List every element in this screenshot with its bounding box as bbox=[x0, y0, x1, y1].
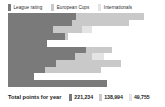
bar-row[interactable] bbox=[8, 40, 163, 47]
total-swatch-icon bbox=[69, 94, 72, 101]
total-value: 138,994 bbox=[104, 94, 123, 101]
bar-segment[interactable] bbox=[8, 20, 72, 27]
bar-row[interactable] bbox=[8, 13, 163, 20]
totals-values: 221,234 138,994 49,755 bbox=[69, 94, 155, 101]
bar-row[interactable] bbox=[8, 60, 163, 67]
legend-item-internationals[interactable]: Internationals bbox=[98, 4, 132, 11]
bar-row[interactable] bbox=[8, 73, 163, 80]
bar-row[interactable] bbox=[8, 67, 163, 74]
chart-plot-area bbox=[8, 13, 163, 87]
bar-segment[interactable] bbox=[65, 33, 68, 40]
bar-row[interactable] bbox=[8, 47, 163, 54]
legend-item-league-rating[interactable]: League rating bbox=[8, 4, 42, 11]
bar-segment[interactable] bbox=[53, 26, 82, 33]
total-item-european-cups: 138,994 bbox=[99, 94, 123, 101]
legend-swatch-icon bbox=[98, 4, 101, 11]
legend-item-label: League rating bbox=[14, 5, 43, 11]
legend-item-european-cups[interactable]: European Cups bbox=[51, 4, 89, 11]
legend-item-label: European Cups bbox=[57, 5, 90, 11]
bar-segment[interactable] bbox=[8, 13, 76, 20]
bar-segment[interactable] bbox=[8, 53, 75, 60]
totals-label: Total points for year bbox=[8, 94, 61, 101]
bar-row[interactable] bbox=[8, 20, 163, 27]
totals-footer: Total points for year 221,234 138,994 49… bbox=[0, 87, 165, 107]
chart-legend: League rating European Cups Internationa… bbox=[0, 0, 165, 13]
bar-segment[interactable] bbox=[82, 26, 91, 33]
bar-segment[interactable] bbox=[72, 20, 129, 27]
total-swatch-icon bbox=[99, 94, 102, 101]
bar-row[interactable] bbox=[8, 80, 163, 87]
bar-segment[interactable] bbox=[8, 73, 34, 80]
legend-item-label: Internationals bbox=[104, 5, 132, 11]
bar-segment[interactable] bbox=[8, 60, 56, 67]
bar-segment[interactable] bbox=[8, 67, 45, 74]
total-value: 221,234 bbox=[74, 94, 93, 101]
bar-segment[interactable] bbox=[8, 47, 86, 54]
bar-segment[interactable] bbox=[8, 40, 47, 47]
bar-segment[interactable] bbox=[76, 13, 144, 20]
bar-segment[interactable] bbox=[56, 60, 121, 67]
bar-segment[interactable] bbox=[92, 53, 104, 60]
bar-segment[interactable] bbox=[45, 67, 101, 74]
total-item-internationals: 49,755 bbox=[129, 94, 150, 101]
bar-segment[interactable] bbox=[8, 33, 65, 40]
bar-row[interactable] bbox=[8, 33, 163, 40]
bar-row[interactable] bbox=[8, 53, 163, 60]
total-item-league-rating: 221,234 bbox=[69, 94, 93, 101]
total-value: 49,755 bbox=[134, 94, 150, 101]
bar-row[interactable] bbox=[8, 26, 163, 33]
legend-swatch-icon bbox=[8, 4, 11, 11]
bar-segment[interactable] bbox=[8, 26, 53, 33]
stacked-bar-chart-widget: League rating European Cups Internationa… bbox=[0, 0, 165, 107]
legend-swatch-icon bbox=[51, 4, 54, 11]
bar-segment[interactable] bbox=[75, 53, 92, 60]
bar-segment[interactable] bbox=[8, 80, 107, 87]
bar-segment[interactable] bbox=[86, 47, 112, 54]
total-swatch-icon bbox=[129, 94, 132, 101]
